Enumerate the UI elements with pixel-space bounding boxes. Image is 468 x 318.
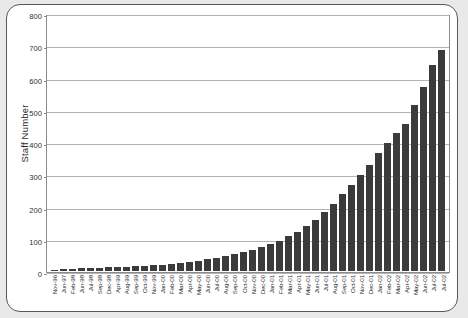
x-axis-label: Oct-01 <box>348 275 356 317</box>
bar <box>159 265 167 271</box>
bar <box>393 133 401 271</box>
bar <box>339 194 347 271</box>
y-axis-tick-mark <box>44 145 47 146</box>
bar <box>51 270 59 271</box>
bar <box>114 267 122 271</box>
x-axis-label: Feb-00 <box>167 275 175 317</box>
x-axis-label: Jan-01 <box>267 275 275 317</box>
x-axis-label: Mar-02 <box>393 275 401 317</box>
x-axis-label: Mar-00 <box>176 275 184 317</box>
y-axis-tick-mark <box>44 48 47 49</box>
bar <box>285 236 293 271</box>
x-axis-labels: Nov-96Jun-97Feb-98Jun-98Jul-98Sep-98Dec-… <box>47 275 449 317</box>
bar <box>213 258 221 271</box>
x-axis-label: Jul-02 <box>439 275 447 317</box>
bar <box>123 267 131 271</box>
x-axis-label: Feb-02 <box>384 275 392 317</box>
bar <box>231 254 239 271</box>
bar <box>357 175 365 271</box>
x-axis-label: Sep-99 <box>131 275 139 317</box>
x-axis-label: Jul-98 <box>86 275 94 317</box>
x-axis-label: Apr-00 <box>185 275 193 317</box>
x-axis-label: Jan-02 <box>375 275 383 317</box>
bar <box>420 87 428 271</box>
x-axis-label: Jul-01 <box>321 275 329 317</box>
y-axis-tick-label: 600 <box>29 76 42 85</box>
y-axis-tick-mark <box>44 242 47 243</box>
bar <box>429 65 437 271</box>
x-axis-label: May-02 <box>411 275 419 317</box>
bar <box>348 185 356 271</box>
x-axis-label: Nov-01 <box>357 275 365 317</box>
bar <box>168 264 176 271</box>
bar <box>384 143 392 271</box>
x-axis-label: Oct-00 <box>240 275 248 317</box>
x-axis-label: Jun-01 <box>312 275 320 317</box>
bar <box>267 244 275 271</box>
x-axis-label: Jun-00 <box>203 275 211 317</box>
bar <box>87 268 95 271</box>
bar <box>141 266 149 271</box>
x-axis-label: May-00 <box>194 275 202 317</box>
x-axis-label: Apr-01 <box>294 275 302 317</box>
x-axis-label: Dec-98 <box>104 275 112 317</box>
y-axis-tick-mark <box>44 81 47 82</box>
clipped-side-note <box>456 18 468 84</box>
bar <box>294 232 302 271</box>
x-axis-label: Nov-99 <box>149 275 157 317</box>
bar <box>186 262 194 271</box>
x-axis-label: Feb-01 <box>276 275 284 317</box>
x-axis-label: Feb-98 <box>68 275 76 317</box>
x-axis-label: Sep-01 <box>339 275 347 317</box>
plot-area: 0100200300400500600700800 <box>46 15 450 273</box>
gridline: 0 <box>47 273 449 274</box>
bar <box>312 220 320 271</box>
x-axis-label: Aug-01 <box>330 275 338 317</box>
bar <box>375 153 383 271</box>
x-axis-label: Jun-97 <box>59 275 67 317</box>
bar <box>240 252 248 271</box>
y-axis-tick-label: 800 <box>29 12 42 21</box>
bar <box>204 259 212 271</box>
bar <box>411 105 419 271</box>
bar <box>276 241 284 271</box>
x-axis-label: Dec-00 <box>258 275 266 317</box>
x-axis-label: Jun-98 <box>77 275 85 317</box>
bar <box>366 165 374 271</box>
bar <box>249 250 257 271</box>
bar <box>150 265 158 271</box>
x-axis-label: Mar-01 <box>285 275 293 317</box>
y-axis-tick-mark <box>44 177 47 178</box>
y-axis-tick-mark <box>44 113 47 114</box>
bar <box>177 263 185 271</box>
x-axis-label: Jan-00 <box>158 275 166 317</box>
y-axis-tick-label: 400 <box>29 141 42 150</box>
bar <box>222 256 230 271</box>
x-axis-label: May-01 <box>303 275 311 317</box>
x-axis-label: Jun-02 <box>421 275 429 317</box>
bar <box>438 50 446 271</box>
bar <box>96 268 104 271</box>
y-axis-tick-label: 700 <box>29 44 42 53</box>
x-axis-label: Apr-99 <box>113 275 121 317</box>
bar <box>321 212 329 271</box>
y-axis-title: Staff Number <box>19 74 30 194</box>
bar <box>303 226 311 271</box>
bar <box>105 267 113 271</box>
bar <box>195 261 203 271</box>
bar <box>60 269 68 271</box>
bar <box>69 269 77 271</box>
bar <box>78 268 86 271</box>
y-axis-tick-mark <box>44 210 47 211</box>
y-axis-tick-mark <box>44 16 47 17</box>
x-axis-label: Jul-02 <box>430 275 438 317</box>
x-axis-label: Dec-01 <box>366 275 374 317</box>
x-axis-label: Oct-99 <box>140 275 148 317</box>
bar <box>132 266 140 271</box>
x-axis-label: Apr-02 <box>402 275 410 317</box>
x-axis-label: Jul-00 <box>212 275 220 317</box>
y-axis-tick-label: 500 <box>29 108 42 117</box>
y-axis-tick-label: 0 <box>38 270 42 279</box>
bar <box>330 204 338 271</box>
x-axis-label: Nov-00 <box>249 275 257 317</box>
